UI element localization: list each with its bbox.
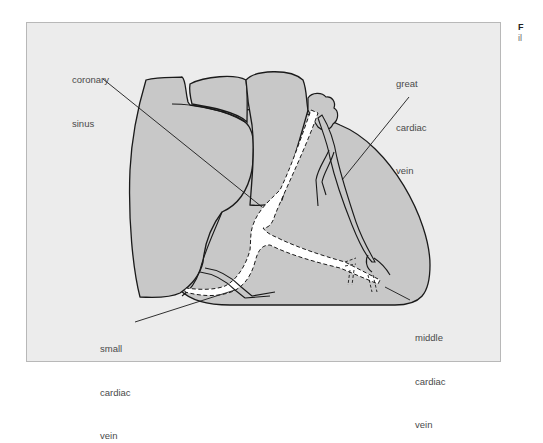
label-line: vein	[415, 418, 446, 433]
label-line: cardiac	[100, 386, 131, 401]
label-line: cardiac	[415, 375, 446, 390]
label-line: vein	[396, 164, 427, 179]
label-middle-cardiac-vein: middle cardiac vein	[415, 302, 446, 443]
side-caption-title: F	[518, 22, 524, 33]
label-line: small	[100, 342, 131, 357]
label-line: vein	[100, 429, 131, 443]
label-great-cardiac-vein: great cardiac vein	[396, 48, 427, 193]
label-small-cardiac-vein: small cardiac vein	[100, 313, 131, 443]
label-line: cardiac	[396, 121, 427, 136]
side-caption-text: il	[518, 33, 522, 44]
label-line: coronary	[72, 73, 109, 88]
label-line: great	[396, 77, 427, 92]
label-line: sinus	[72, 117, 109, 132]
label-line: middle	[415, 331, 446, 346]
label-coronary-sinus: coronary sinus	[72, 44, 109, 146]
